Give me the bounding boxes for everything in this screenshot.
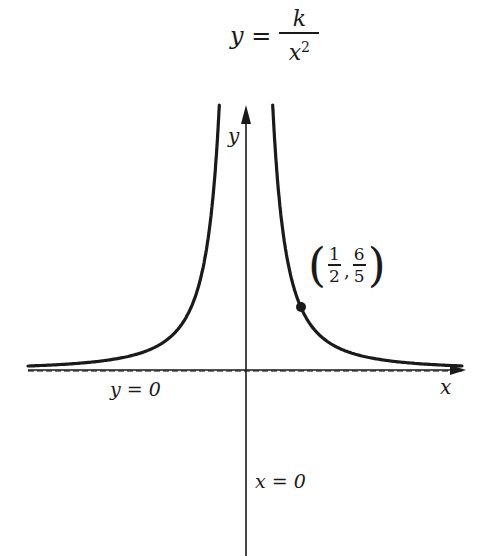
point-y-denominator: 5 xyxy=(354,266,365,286)
curve-right-branch xyxy=(273,105,462,366)
left-paren: ( xyxy=(308,242,326,288)
graph xyxy=(0,0,494,556)
x-axis-label: x xyxy=(440,375,451,399)
y-axis-label: y xyxy=(228,124,239,148)
vertical-asymptote-text: x = 0 xyxy=(255,470,306,492)
point-x-denominator: 2 xyxy=(329,266,340,286)
marked-point xyxy=(296,302,306,312)
vertical-asymptote-label: x = 0 xyxy=(255,470,306,492)
point-separator: , xyxy=(344,260,350,281)
point-x-numerator: 1 xyxy=(329,244,340,264)
horizontal-asymptote-text: y = 0 xyxy=(110,378,161,400)
curve-left-branch xyxy=(28,105,219,366)
point-y-fraction: 6 5 xyxy=(353,244,366,286)
horizontal-asymptote-label: y = 0 xyxy=(110,378,161,400)
point-x-fraction: 1 2 xyxy=(328,244,341,286)
point-label: ( 1 2 , 6 5 ) xyxy=(308,242,386,288)
y-axis-arrow-icon xyxy=(241,105,251,124)
right-paren: ) xyxy=(368,242,386,288)
point-y-numerator: 6 xyxy=(354,244,365,264)
